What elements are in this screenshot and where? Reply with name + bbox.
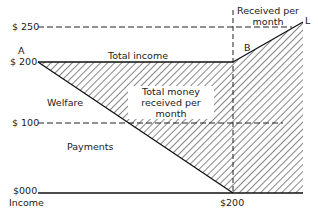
welfare-label: Welfare	[47, 97, 83, 108]
total-income-label: Total income	[108, 50, 168, 61]
total-money-line1: Total money	[130, 86, 212, 97]
received-line1: Received per	[232, 5, 304, 16]
point-label-b: B	[244, 42, 251, 53]
y-label-000: $000	[13, 185, 37, 196]
total-money-line3: month	[130, 108, 212, 119]
received-per-month-label: Received per month	[232, 5, 304, 27]
y-label-250: $ 250	[12, 21, 39, 32]
x-label-200: $200	[220, 197, 244, 208]
total-money-line2: received per	[130, 97, 212, 108]
received-line2: month	[232, 16, 304, 27]
payments-label: Payments	[67, 141, 114, 152]
y-label-100: $ 100	[12, 117, 39, 128]
point-label-l: L	[305, 15, 310, 26]
y-label-200: $ 200	[10, 56, 37, 67]
total-money-label: Total money received per month	[130, 86, 212, 119]
x-label-income: Income	[9, 197, 44, 208]
point-label-a: A	[18, 45, 25, 56]
